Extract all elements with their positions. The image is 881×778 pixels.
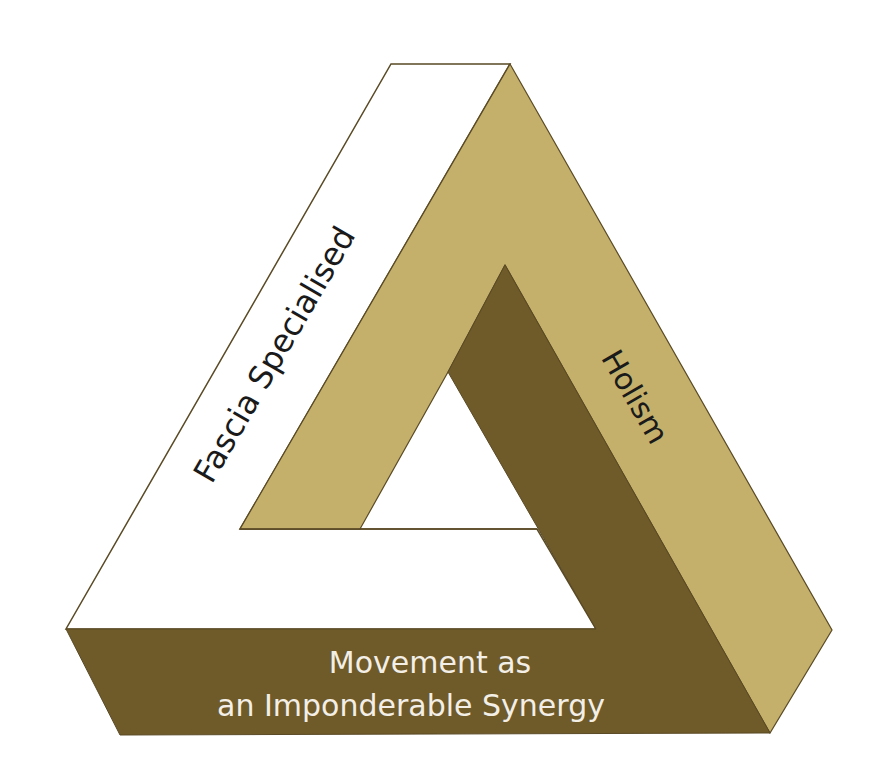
impossible-triangle-diagram: Fascia Specialised Holism Movement as an…: [0, 0, 881, 778]
movement-label-line1: Movement as: [329, 645, 531, 680]
movement-label-line2: an Imponderable Synergy: [217, 688, 605, 723]
triangle-svg: Fascia Specialised Holism Movement as an…: [0, 0, 881, 778]
